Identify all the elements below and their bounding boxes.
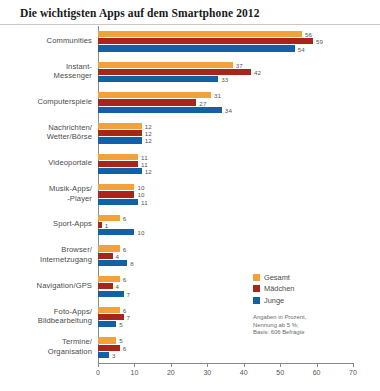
category-label-line: Foto-Apps/ [0, 307, 92, 316]
bar-gesamt [98, 123, 142, 129]
bar-gesamt [98, 31, 302, 37]
legend-label: Gesamt [264, 273, 290, 282]
legend-item: Gesamt [253, 272, 294, 282]
x-axis-tick [280, 363, 281, 367]
bar-gesamt [98, 307, 120, 313]
legend-label: Mädchen [264, 284, 294, 293]
bar-row: 6 [98, 345, 353, 351]
category-label: Sport-Apps [0, 219, 92, 228]
legend-label: Junge [264, 296, 284, 305]
bar-value-label: 12 [145, 137, 152, 144]
category-label-line: Computerspiele [0, 97, 92, 106]
bar-value-label: 6 [123, 276, 127, 283]
x-axis-tick-label: 40 [240, 369, 248, 376]
bar-maedchen [98, 283, 113, 289]
bar-row: 8 [98, 260, 353, 266]
bar-maedchen [98, 99, 196, 105]
footnote: Angaben in Prozent,Nennung ab 5 %;Basis:… [253, 314, 306, 337]
legend-item: Mädchen [253, 284, 294, 294]
x-axis-tick [244, 363, 245, 367]
bar-value-label: 12 [145, 168, 152, 175]
bar-junge [98, 352, 109, 358]
bar-value-label: 33 [221, 76, 228, 83]
category-label: Videoportale [0, 158, 92, 167]
bar-row: 54 [98, 45, 353, 51]
x-axis-tick [317, 363, 318, 367]
category-label-line: Navigation/GPS [0, 281, 92, 290]
bar-row: 10 [98, 184, 353, 190]
bar-value-label: 6 [123, 214, 127, 221]
bar-junge [98, 321, 116, 327]
bar-value-label: 42 [254, 68, 261, 75]
category-label: Navigation/GPS [0, 281, 92, 290]
bar-row: 5 [98, 321, 353, 327]
bar-row: 7 [98, 314, 353, 320]
bar-row: 4 [98, 253, 353, 259]
x-axis-tick-label: 0 [96, 369, 100, 376]
bar-maedchen [98, 345, 120, 351]
x-axis-tick-label: 30 [203, 369, 211, 376]
category-label: Foto-Apps/Bildbearbeitung [0, 307, 92, 326]
category-label: Communities [0, 36, 92, 45]
category-label: Instant-Messenger [0, 62, 92, 81]
category-label: Computerspiele [0, 97, 92, 106]
bar-value-label: 3 [112, 351, 116, 358]
bar-value-label: 11 [141, 160, 148, 167]
bar-row: 42 [98, 69, 353, 75]
x-axis-tick-label: 60 [313, 369, 321, 376]
category-label-line: Wetter/Börse [0, 132, 92, 141]
plot-area: 5659543742333127341212121111121010116110… [98, 26, 353, 363]
bar-value-label: 34 [225, 106, 232, 113]
bar-gesamt [98, 245, 120, 251]
category-label-line: Bildbearbeitung [0, 316, 92, 325]
bar-value-label: 12 [145, 123, 152, 130]
bar-value-label: 54 [298, 45, 305, 52]
bar-row: 10 [98, 229, 353, 235]
footnote-line: Basis: 606 Befragte [253, 329, 306, 337]
bar-row: 10 [98, 191, 353, 197]
bar-maedchen [98, 314, 124, 320]
bar-value-label: 11 [141, 198, 148, 205]
bar-junge [98, 168, 142, 174]
bar-row: 5 [98, 337, 353, 343]
bar-row: 59 [98, 38, 353, 44]
bar-row: 6 [98, 215, 353, 221]
bar-row: 12 [98, 168, 353, 174]
bar-value-label: 59 [316, 38, 323, 45]
category-label-line: Organisation [0, 347, 92, 356]
category-label-line: -Player [0, 194, 92, 203]
bar-value-label: 8 [130, 259, 134, 266]
x-axis-tick [171, 363, 172, 367]
x-axis-tick [98, 363, 99, 367]
bar-junge [98, 137, 142, 143]
legend-item: Junge [253, 295, 294, 305]
bar-maedchen [98, 253, 113, 259]
legend: GesamtMädchenJunge [253, 272, 294, 307]
bar-maedchen [98, 222, 102, 228]
bar-row: 12 [98, 130, 353, 136]
category-label-line: Sport-Apps [0, 219, 92, 228]
bar-row: 12 [98, 123, 353, 129]
bar-gesamt [98, 154, 138, 160]
bar-value-label: 56 [305, 31, 312, 38]
x-axis-tick [207, 363, 208, 367]
x-axis-tick [134, 363, 135, 367]
bar-junge [98, 199, 138, 205]
bar-value-label: 5 [119, 337, 123, 344]
bar-gesamt [98, 62, 233, 68]
bar-value-label: 10 [137, 184, 144, 191]
bar-value-label: 6 [123, 245, 127, 252]
legend-swatch-maedchen [253, 285, 260, 292]
bar-value-label: 7 [127, 314, 131, 321]
bar-gesamt [98, 337, 116, 343]
bar-junge [98, 229, 134, 235]
bar-value-label: 1 [105, 222, 109, 229]
category-label: Termine/Organisation [0, 337, 92, 356]
bar-gesamt [98, 215, 120, 221]
bar-maedchen [98, 191, 134, 197]
bar-row: 31 [98, 92, 353, 98]
bar-maedchen [98, 38, 313, 44]
bar-row: 1 [98, 222, 353, 228]
bar-row: 6 [98, 276, 353, 282]
x-axis-tick-label: 70 [349, 369, 357, 376]
